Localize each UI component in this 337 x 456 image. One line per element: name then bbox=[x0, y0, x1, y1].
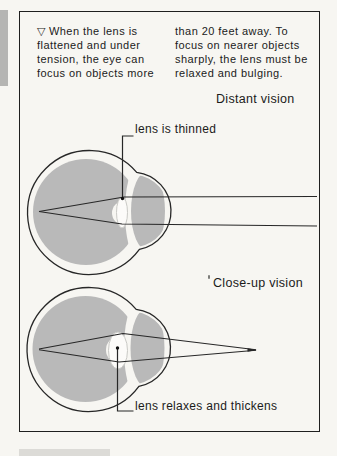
ray-arrow-tip bbox=[248, 348, 258, 352]
closeup-eye bbox=[27, 288, 257, 412]
caption-line: flattened and under bbox=[37, 38, 154, 52]
distant-eye bbox=[28, 136, 317, 275]
caption-line: focus on nearer objects bbox=[175, 38, 308, 52]
lens-marker-dot bbox=[116, 346, 119, 349]
caption-column-1: ▽ When the lens is flattened and under t… bbox=[37, 24, 154, 80]
lens-marker-dot bbox=[121, 197, 124, 200]
caption-line: tension, the eye can bbox=[37, 52, 154, 66]
closeup-vision-title: Close-up vision bbox=[213, 276, 303, 290]
caption-line: sharply, the lens must be bbox=[175, 52, 308, 66]
lens-thinned-label: lens is thinned bbox=[135, 122, 216, 136]
caption-line: focus on objects more bbox=[37, 66, 154, 80]
print-speck bbox=[208, 275, 210, 279]
caption-column-2: than 20 feet away. To focus on nearer ob… bbox=[175, 24, 308, 80]
figure-canvas: ▽ When the lens is flattened and under t… bbox=[0, 0, 337, 456]
lens-relaxes-label: lens relaxes and thickens bbox=[135, 399, 277, 413]
caption-line: than 20 feet away. To bbox=[175, 24, 308, 38]
caption-line: relaxed and bulging. bbox=[175, 66, 308, 80]
caption-line: ▽ When the lens is bbox=[37, 24, 154, 38]
distant-vision-title: Distant vision bbox=[216, 92, 295, 106]
